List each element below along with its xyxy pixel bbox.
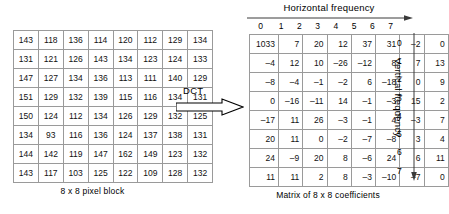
coefficient-cell: –8 [250,73,279,92]
pixel-cell: 134 [188,31,213,50]
table-row: 11 11 2 8 –3 –10 –7 0 [250,168,449,187]
coefficient-cell: –11 [303,92,327,111]
pixel-cell: 129 [138,107,163,126]
coefficient-cell: 11 [424,149,448,168]
table-row: –8 –4 –1 –2 6 –18 0 9 [250,73,449,92]
coefficient-cell: 0 [250,92,279,111]
pixel-cell: 103 [63,164,88,183]
pixel-cell: 124 [163,50,188,69]
pixel-cell: 123 [138,50,163,69]
coefficient-cell: –3 [351,168,375,187]
coefficient-cell: 10 [303,54,327,73]
coefficient-cell: 8 [327,168,351,187]
pixel-cell: 143 [14,164,39,183]
pixel-cell: 131 [14,50,39,69]
coefficient-cell: 12 [279,54,303,73]
coefficient-cell: –3 [327,111,351,130]
coefficient-cell: –4 [279,73,303,92]
pixel-cell: 143 [14,31,39,50]
column-index-row: 0 1 2 3 4 5 6 7 [249,20,395,32]
pixel-cell: 109 [138,164,163,183]
pixel-cell: 112 [63,107,88,126]
pixel-cell: 133 [188,50,213,69]
pixel-cell: 114 [88,31,113,50]
coefficient-cell: 11 [279,168,303,187]
coefficient-cell: –4 [250,54,279,73]
coefficient-cell: –16 [279,92,303,111]
table-row: 131 121 126 143 134 123 124 133 [14,50,213,69]
pixel-cell: 119 [63,145,88,164]
coefficient-cell: 4 [424,130,448,149]
coefficient-cell: –9 [279,149,303,168]
pixel-cell: 150 [14,107,39,126]
pixel-cell: 138 [163,126,188,145]
coefficient-cell: –7 [351,130,375,149]
coefficient-cell: –1 [351,111,375,130]
table-row: 134 93 116 136 124 137 138 131 [14,126,213,145]
coefficient-cell: 11 [279,130,303,149]
pixel-cell: 139 [88,88,113,107]
pixel-cell: 149 [138,145,163,164]
pixel-cell: 113 [113,69,138,88]
coefficient-cell: –1 [303,73,327,92]
pixel-cell: 126 [113,107,138,126]
pixel-cell: 120 [113,31,138,50]
horizontal-frequency-label: Horizontal frequency [249,2,409,13]
pixel-cell: 132 [63,88,88,107]
coefficient-cell: 9 [424,73,448,92]
table-row: 144 142 119 147 162 149 123 132 [14,145,213,164]
pixel-cell: 124 [38,107,63,126]
pixel-cell: 134 [113,50,138,69]
dct-arrow-icon [176,98,244,116]
pixel-cell: 125 [88,164,113,183]
pixel-cell: 129 [163,31,188,50]
pixel-cell: 93 [38,126,63,145]
coefficient-cell: 8 [327,149,351,168]
pixel-cell: 128 [163,164,188,183]
pixel-cell: 121 [38,50,63,69]
pixel-cell: 124 [113,126,138,145]
table-row: 24 –9 20 8 –6 24 6 11 [250,149,449,168]
pixel-cell: 117 [38,164,63,183]
column-index: 5 [345,20,363,32]
coefficient-cell: –1 [351,92,375,111]
pixel-cell: 126 [63,50,88,69]
coefficient-cell: 2 [303,168,327,187]
coefficient-cell: 24 [250,149,279,168]
pixel-cell: 116 [63,126,88,145]
pixel-cell: 132 [188,164,213,183]
pixel-cell: 116 [138,88,163,107]
coefficient-cell: –12 [351,54,375,73]
coefficient-cell: 1033 [250,35,279,54]
coefficient-cell: 20 [250,130,279,149]
column-index: 2 [290,20,308,32]
pixel-cell: 131 [188,126,213,145]
pixel-cell: 143 [88,50,113,69]
coefficient-cell: –17 [250,111,279,130]
table-row: –17 11 26 –3 –1 4 –3 7 [250,111,449,130]
coefficient-matrix-body: 1033 7 20 12 37 31 –2 0 –4 12 10 –26 –12… [250,35,449,187]
coefficient-cell: 0 [303,130,327,149]
coefficient-cell: 2 [424,92,448,111]
vertical-frequency-label: Vertical frequency [393,58,404,168]
column-index: 7 [382,20,400,32]
coefficient-cell: 14 [327,92,351,111]
coefficient-cell: –6 [351,149,375,168]
coefficient-cell: 20 [303,149,327,168]
column-index: 6 [363,20,381,32]
coefficient-cell: 0 [424,35,448,54]
coefficient-cell: 13 [424,54,448,73]
table-row: 0 –16 –11 14 –1 –3 15 2 [250,92,449,111]
coefficient-cell: –26 [327,54,351,73]
table-row: 1033 7 20 12 37 31 –2 0 [250,35,449,54]
pixel-cell: 162 [113,145,138,164]
pixel-cell: 132 [188,145,213,164]
coefficient-cell: 7 [424,111,448,130]
pixel-cell: 134 [14,126,39,145]
pixel-cell: 136 [63,31,88,50]
pixel-cell: 144 [14,145,39,164]
coefficient-cell: 0 [424,168,448,187]
coefficient-matrix-caption: Matrix of 8 x 8 coefficients [238,190,418,200]
column-index: 4 [327,20,345,32]
coefficient-cell: 11 [250,168,279,187]
